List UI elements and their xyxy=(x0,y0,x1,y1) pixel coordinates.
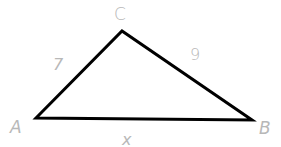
side-label-cb: 9 xyxy=(190,45,200,64)
side-label-ab: x xyxy=(121,130,132,147)
triangle-abc xyxy=(36,31,252,120)
triangle-diagram: C A B 7 9 x xyxy=(0,0,281,147)
vertex-label-b: B xyxy=(259,118,271,138)
side-label-ac: 7 xyxy=(53,55,64,74)
vertex-label-a: A xyxy=(9,117,22,137)
vertex-label-c: C xyxy=(114,4,126,24)
